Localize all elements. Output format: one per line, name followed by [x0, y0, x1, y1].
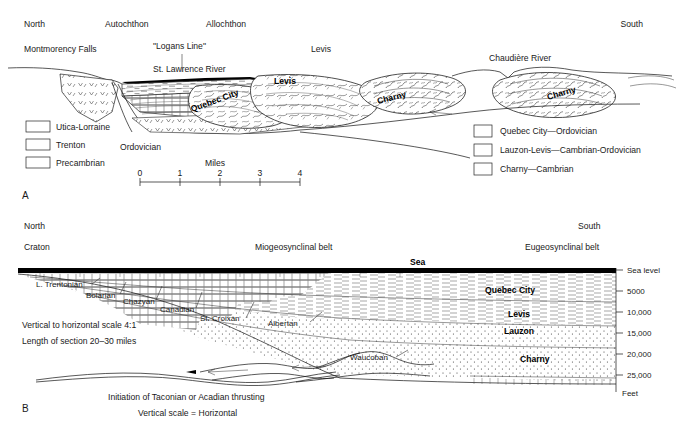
label-chaudiere-river: Chaudière River	[489, 53, 551, 63]
scale-tick-2: 2	[218, 168, 223, 178]
stage-label-l-trentonian: L. Trentonian	[36, 280, 83, 289]
geologic-cross-section-figure: North Autochthon Allochthon South Montmo…	[0, 0, 678, 435]
caption-inset-scale: Vertical scale = Horizontal	[138, 408, 237, 418]
label-ordovician-system: Ordovician	[120, 142, 161, 152]
unit-label-charny: Charny	[520, 354, 550, 364]
legend-swatch-limestone-brick	[26, 139, 50, 150]
label-eugeosynclinal-belt: Eugeosynclinal belt	[525, 242, 600, 252]
depth-tick-20000: 20,000	[627, 350, 652, 359]
panel-a-autochthon-label: Autochthon	[105, 19, 149, 29]
note-vertical-scale: Vertical to horizontal scale 4:1	[22, 320, 136, 330]
stage-label-albertan: Albertan	[268, 319, 298, 328]
legend-item-lauzon-levis[interactable]: Lauzon-Levis—Cambrian-Ordovician	[474, 144, 641, 156]
legend-item-charny[interactable]: Charny—Cambrian	[474, 163, 574, 175]
legend-label-precambrian: Precambrian	[56, 158, 105, 168]
panel-a-allochthon-label: Allochthon	[206, 19, 246, 29]
label-montmorency-falls: Montmorency Falls	[24, 44, 97, 54]
legend-label-utica-lorraine: Utica-Lorraine	[56, 122, 110, 132]
scale-tick-4: 4	[298, 168, 303, 178]
label-logans-line: "Logans Line"	[153, 41, 206, 51]
panel-b-direction-left: North	[24, 221, 45, 231]
note-section-length: Length of section 20–30 miles	[22, 336, 136, 346]
legend-item-trenton[interactable]: Trenton	[26, 139, 86, 150]
depth-tick-15000: 15,000	[627, 329, 652, 338]
scale-tick-3: 3	[258, 168, 263, 178]
panel-b-direction-right: South	[578, 221, 601, 231]
stage-label-bolarian: Bolarian	[86, 291, 115, 300]
legend-swatch-nappe-c	[474, 163, 492, 175]
label-st-lawrence-river: St. Lawrence River	[153, 64, 226, 74]
panel-b-id: B	[22, 403, 29, 414]
caption-initiation-thrusting: Initiation of Taconian or Acadian thrust…	[108, 392, 265, 402]
legend-label-lauzon-levis: Lauzon-Levis—Cambrian-Ordovician	[500, 145, 641, 155]
stage-label-st-croixan: St. Croixan	[200, 314, 240, 323]
panel-a-direction-right: South	[621, 19, 644, 29]
label-miogeosynclinal-belt: Miogeosynclinal belt	[255, 242, 333, 252]
legend-label-quebec-city: Quebec City—Ordovician	[500, 126, 597, 136]
panel-a-direction-left: North	[24, 19, 45, 29]
legend-swatch-crystalline-v	[26, 157, 50, 168]
label-sea: Sea	[410, 257, 426, 267]
depth-tick-sea-level: Sea level	[627, 266, 660, 275]
unit-label-lauzon: Lauzon	[504, 326, 534, 336]
scale-bar-title: Miles	[205, 158, 225, 168]
legend-item-precambrian[interactable]: Precambrian	[26, 157, 105, 168]
legend-swatch-nappe-a	[474, 125, 492, 137]
stage-label-chazyan: Chazyan	[123, 297, 155, 306]
depth-axis-unit: Feet	[622, 389, 639, 398]
legend-label-trenton: Trenton	[56, 140, 86, 150]
legend-label-charny: Charny—Cambrian	[500, 164, 574, 174]
unit-label-quebec-city: Quebec City	[485, 285, 535, 295]
panel-a-id: A	[22, 190, 29, 201]
legend-swatch-shale-dash	[26, 121, 50, 132]
label-levis-top: Levis	[311, 44, 331, 54]
unit-label-levis: Levis	[508, 309, 530, 319]
label-craton: Craton	[24, 242, 50, 252]
stage-label-canadian: Canadian	[160, 305, 194, 314]
sea-level-band	[18, 268, 616, 273]
legend-swatch-nappe-b	[474, 144, 492, 156]
scale-tick-0: 0	[138, 168, 143, 178]
depth-tick-10000: 10,000	[627, 308, 652, 317]
scale-tick-1: 1	[178, 168, 183, 178]
depth-tick-5000: 5000	[627, 287, 645, 296]
legend-item-utica-lorraine[interactable]: Utica-Lorraine	[26, 121, 110, 132]
figure-svg: North Autochthon Allochthon South Montmo…	[0, 0, 678, 435]
depth-tick-25000: 25,000	[627, 371, 652, 380]
label-levis-nappe: Levis	[274, 76, 296, 86]
